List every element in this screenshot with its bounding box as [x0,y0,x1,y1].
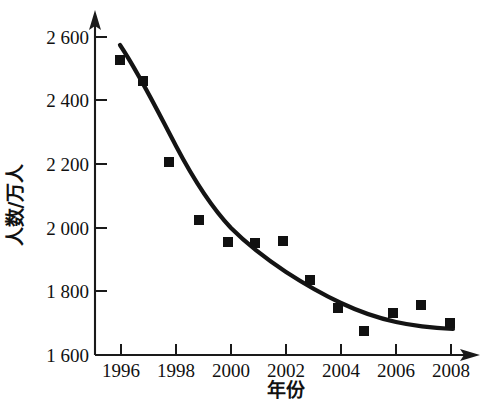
data-point-2003 [305,275,315,285]
data-point-1997 [138,76,148,86]
data-point-2007 [416,300,426,310]
x-tick-label-2004: 2004 [322,360,361,381]
y-tick-label-1600: 1 600 [46,345,89,366]
x-tick-label-2006: 2006 [377,360,415,381]
y-tick-label-2600: 2 600 [46,27,89,48]
data-point-1999 [194,215,204,225]
data-point-2005 [359,326,369,336]
y-tick-marks [95,37,107,291]
x-tick-label-2008: 2008 [432,360,470,381]
x-axis-title: 年份 [267,379,306,401]
data-point-2006 [388,308,398,318]
x-tick-label-1996: 1996 [102,360,140,381]
data-points [115,55,455,336]
data-point-2000 [223,237,233,247]
x-tick-labels: 1996 1998 2000 2002 2004 2006 2008 [102,360,470,381]
y-tick-label-1800: 1 800 [46,281,89,302]
x-tick-label-2002: 2002 [267,360,305,381]
data-point-2004 [333,303,343,313]
chart-page: 2 600 2 400 2 200 2 000 1 800 1 600 1996… [0,0,486,402]
y-axis [89,10,101,355]
y-tick-label-2200: 2 200 [46,154,89,175]
x-tick-label-1998: 1998 [157,360,195,381]
data-point-2002 [278,236,288,246]
y-axis-title: 人数/万人 [4,163,26,247]
x-tick-label-2000: 2000 [212,360,250,381]
scatter-chart: 2 600 2 400 2 200 2 000 1 800 1 600 1996… [0,0,486,402]
data-point-2001 [250,238,260,248]
y-tick-label-2400: 2 400 [46,90,89,111]
data-point-1996 [115,55,125,65]
x-tick-marks [121,344,451,355]
y-tick-labels: 2 600 2 400 2 200 2 000 1 800 1 600 [46,27,89,366]
data-point-2008 [445,318,455,328]
data-point-1998 [164,157,174,167]
trend-curve [120,45,453,329]
y-tick-label-2000: 2 000 [46,218,89,239]
